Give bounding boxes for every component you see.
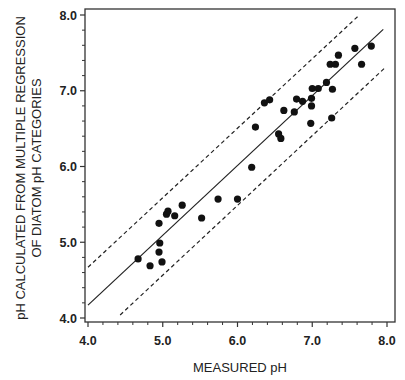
data-point [323,79,330,86]
data-point [252,124,259,131]
data-point [164,208,171,215]
upper-confidence-bound [88,15,359,267]
data-point [308,102,315,109]
data-point [368,42,375,49]
x-tick-label: 6.0 [229,334,246,348]
data-point [155,248,162,255]
data-point [280,107,287,114]
plot-frame [85,9,395,322]
data-point [248,164,255,171]
data-point [158,258,165,265]
data-point [291,108,298,115]
y-tick-label: 6.0 [60,160,77,174]
data-point [328,114,335,121]
data-point [335,52,342,59]
data-point [332,61,339,68]
data-point [179,202,186,209]
x-axis-title: MEASURED pH [193,360,287,375]
y-axis-title-line1: pH CALCULATED FROM MULTIPLE REGRESSION [13,16,28,320]
scatter-chart: 4.05.06.07.08.04.05.06.07.08.0 MEASURED … [0,0,405,380]
x-tick-label: 5.0 [154,334,171,348]
data-point [198,214,205,221]
data-point [329,86,336,93]
data-point [171,212,178,219]
data-point [307,120,314,127]
regression-line [88,29,383,305]
data-point [234,195,241,202]
x-tick-label: 8.0 [378,334,395,348]
y-tick-label: 7.0 [60,84,77,98]
data-point [308,95,315,102]
data-point [299,98,306,105]
data-point [266,96,273,103]
data-points [134,42,374,269]
y-tick-label: 8.0 [60,9,77,23]
data-point [146,262,153,269]
x-tick-label: 4.0 [79,334,96,348]
y-tick-label: 5.0 [60,236,77,250]
plot-border [85,9,395,322]
y-axis-title-line2: OF DIATOM pH CATEGORIES [29,78,44,257]
data-point [155,220,162,227]
data-point [277,135,284,142]
y-tick-label: 4.0 [60,312,77,326]
lower-confidence-bound [120,67,385,315]
data-point [358,61,365,68]
x-tick-label: 7.0 [304,334,321,348]
data-point [315,85,322,92]
axis-ticks: 4.05.06.07.08.04.05.06.07.08.0 [60,9,396,349]
fit-lines [88,15,386,315]
data-point [156,239,163,246]
data-point [214,195,221,202]
data-point [351,45,358,52]
data-point [134,255,141,262]
